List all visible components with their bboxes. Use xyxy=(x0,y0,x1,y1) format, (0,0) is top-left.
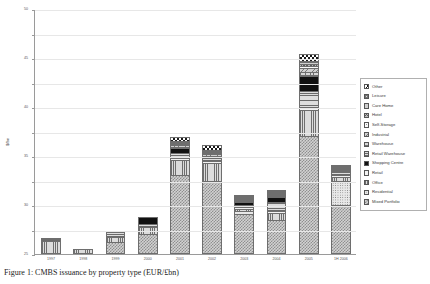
x-axis-tick-label: 1999 xyxy=(99,257,131,261)
bar-segment[interactable] xyxy=(235,215,253,253)
legend-item[interactable]: Mixed Portfolio xyxy=(364,197,424,207)
legend-swatch-icon xyxy=(364,84,369,89)
legend-item[interactable]: Retail Warehouse xyxy=(364,149,424,159)
y-axis-tick: 45 xyxy=(32,35,35,36)
y-axis-tick: 5 xyxy=(32,231,35,232)
stacked-bar[interactable] xyxy=(106,232,126,254)
bar-segment[interactable] xyxy=(74,250,92,253)
bar-segment[interactable] xyxy=(139,235,157,253)
gridline xyxy=(35,231,356,232)
legend-swatch-icon xyxy=(364,122,369,127)
legend-item-label: Warehouse xyxy=(372,142,393,146)
legend-item[interactable]: Office xyxy=(364,178,424,188)
legend-swatch-icon xyxy=(364,199,369,204)
x-axis-tick-label: 2003 xyxy=(228,257,260,261)
legend-swatch-icon xyxy=(364,113,369,118)
stacked-bar[interactable] xyxy=(73,249,93,254)
legend-item-label: Leisure xyxy=(372,94,386,98)
y-axis-tick: 0 xyxy=(32,255,35,256)
bar-segment[interactable] xyxy=(268,221,286,253)
legend-item[interactable]: Warehouse xyxy=(364,140,424,150)
legend-swatch-icon xyxy=(364,142,369,147)
gridline xyxy=(35,157,356,158)
legend-swatch-icon xyxy=(364,180,369,185)
bar-segment[interactable] xyxy=(203,164,221,182)
legend-item[interactable]: Care Home xyxy=(364,101,424,111)
bar-segment[interactable] xyxy=(268,203,286,212)
x-axis-tick-label: 2002 xyxy=(196,257,228,261)
legend-swatch-icon xyxy=(364,132,369,137)
y-axis-tick: 20 xyxy=(32,157,35,158)
x-axis-tick-label: 2005 xyxy=(293,257,325,261)
y-axis-tick: 15 xyxy=(32,182,35,183)
legend-item[interactable]: Hotel xyxy=(364,111,424,121)
gridline xyxy=(35,10,356,11)
legend-swatch-icon xyxy=(364,103,369,108)
bar-segment[interactable] xyxy=(268,214,286,221)
y-axis-tick: 35 xyxy=(32,84,35,85)
legend-item[interactable]: Leisure xyxy=(364,92,424,102)
legend-swatch-icon xyxy=(364,151,369,156)
x-axis-tick-label: 2001 xyxy=(164,257,196,261)
x-axis-tick-label: 1998 xyxy=(67,257,99,261)
legend-swatch-icon xyxy=(364,94,369,99)
legend-item-label: Shopping Centre xyxy=(372,161,403,165)
stacked-bar[interactable] xyxy=(331,165,351,254)
legend-item-label: Mixed Portfolio xyxy=(372,200,400,204)
y-axis-tick-label: 40 xyxy=(24,106,28,110)
stacked-bar[interactable] xyxy=(267,190,287,254)
legend-item-label: Hotel xyxy=(372,113,382,117)
legend-swatch-icon xyxy=(364,190,369,195)
legend-item-label: Retail xyxy=(372,171,383,175)
legend-item[interactable]: Retail xyxy=(364,168,424,178)
legend-item[interactable]: Other xyxy=(364,82,424,92)
gridline xyxy=(35,84,356,85)
stacked-bar[interactable] xyxy=(234,195,254,254)
legend-item-label: Office xyxy=(372,181,383,185)
y-axis-tick-label: 35 xyxy=(24,155,28,159)
bar-segment[interactable] xyxy=(300,77,318,93)
gridline xyxy=(35,182,356,183)
legend-item-label: Residential xyxy=(372,190,393,194)
y-axis-tick: 25 xyxy=(32,133,35,134)
plot-area: 1997199819992000200120022003200420051H 2… xyxy=(34,10,356,255)
stacked-bar[interactable] xyxy=(170,137,190,254)
stacked-bar[interactable] xyxy=(202,145,222,254)
y-axis-tick: 10 xyxy=(32,206,35,207)
bar-segment[interactable] xyxy=(171,161,189,176)
x-axis-tick-label: 1H 2006 xyxy=(325,257,357,261)
y-axis-title: $/bn xyxy=(5,138,10,146)
x-axis-tick-label: 1997 xyxy=(35,257,67,261)
stacked-bar[interactable] xyxy=(138,217,158,254)
bar-segment[interactable] xyxy=(332,182,350,206)
x-axis-tick-label: 2004 xyxy=(260,257,292,261)
bar-segment[interactable] xyxy=(300,137,318,253)
y-axis-tick: 50 xyxy=(32,10,35,11)
y-axis-tick: 30 xyxy=(32,108,35,109)
bar-segment[interactable] xyxy=(171,176,189,253)
bar-segment[interactable] xyxy=(300,92,318,109)
bar-segment[interactable] xyxy=(107,243,125,253)
legend-item-label: Other xyxy=(372,85,382,89)
bar-segment[interactable] xyxy=(203,182,221,253)
legend-item[interactable]: Shopping Centre xyxy=(364,159,424,169)
legend-item-label: Industrial xyxy=(372,133,389,137)
y-axis-tick-label: 50 xyxy=(24,8,28,12)
y-axis-tick: 40 xyxy=(32,59,35,60)
bar-segment[interactable] xyxy=(139,218,157,225)
legend-item[interactable]: Industrial xyxy=(364,130,424,140)
legend-item-label: Self-Storage xyxy=(372,123,395,127)
y-axis-tick-label: 30 xyxy=(24,204,28,208)
stacked-bar[interactable] xyxy=(41,238,61,254)
chart-page: 1997199819992000200120022003200420051H 2… xyxy=(0,0,430,284)
bar-segment[interactable] xyxy=(42,242,60,253)
legend-item[interactable]: Self-Storage xyxy=(364,120,424,130)
gridline xyxy=(35,35,356,36)
y-axis-tick-label: 25 xyxy=(24,253,28,257)
legend-item[interactable]: Residential xyxy=(364,188,424,198)
legend-item-label: Care Home xyxy=(372,104,393,108)
x-axis-tick-label: 2000 xyxy=(132,257,164,261)
chart-legend: OtherLeisureCare HomeHotelSelf-StorageIn… xyxy=(360,78,427,211)
legend-swatch-icon xyxy=(364,170,369,175)
gridline xyxy=(35,108,356,109)
